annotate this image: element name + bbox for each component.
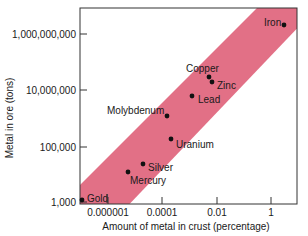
chart: 1,000,000,000 10,000,000 100,000 1,000 0… xyxy=(0,0,308,236)
point-label-gold: Gold xyxy=(87,193,108,204)
point-label-copper: Copper xyxy=(186,63,219,74)
point-lead xyxy=(190,94,195,99)
point-iron xyxy=(282,23,287,28)
point-label-iron: Iron xyxy=(264,17,281,28)
point-zinc xyxy=(210,80,215,85)
point-silver xyxy=(141,162,146,167)
y-axis: 1,000,000,000 10,000,000 100,000 1,000 xyxy=(12,29,87,208)
point-uranium xyxy=(169,137,174,142)
x-axis-title: Amount of metal in crust (percentage) xyxy=(102,221,269,232)
point-molybdenum xyxy=(165,114,170,119)
point-copper xyxy=(207,75,212,80)
point-label-uranium: Uranium xyxy=(176,139,214,150)
y-tick-label: 1,000 xyxy=(51,197,76,208)
x-tick-label: 0.000001 xyxy=(87,207,129,218)
x-tick-label: 1 xyxy=(268,207,274,218)
point-label-lead: Lead xyxy=(198,94,220,105)
x-tick-label: 0.01 xyxy=(207,207,227,218)
y-tick-label: 100,000 xyxy=(40,142,77,153)
point-label-silver: Silver xyxy=(148,162,174,173)
point-label-molybdenum: Molybdenum xyxy=(107,105,164,116)
point-mercury xyxy=(126,170,131,175)
x-tick-label: 0.0001 xyxy=(147,207,178,218)
point-label-mercury: Mercury xyxy=(130,175,166,186)
point-label-zinc: Zinc xyxy=(217,80,236,91)
y-tick-label: 10,000,000 xyxy=(26,85,76,96)
y-axis-title: Metal in ore (tons) xyxy=(4,78,15,159)
y-tick-label: 1,000,000,000 xyxy=(12,29,76,40)
point-gold xyxy=(80,198,85,203)
